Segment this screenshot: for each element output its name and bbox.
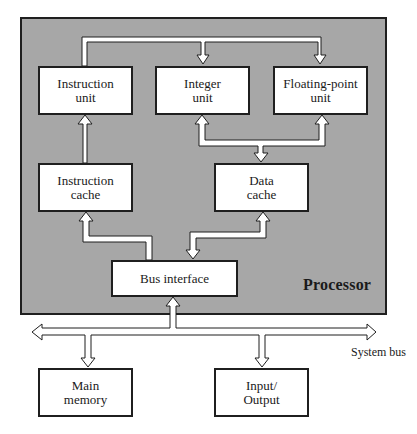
integer-unit-label: Integer unit [184, 77, 221, 105]
data-cache-label: Data cache [247, 174, 277, 202]
integer-unit-block: Integer unit [155, 66, 250, 115]
arrow-icache-to-iunit [78, 115, 92, 163]
main-memory-block: Main memory [38, 368, 133, 417]
floating-point-unit-label: Floating-point unit [283, 77, 357, 105]
instruction-unit-block: Instruction unit [38, 66, 133, 115]
arrow-bus-to-dcache [186, 212, 270, 259]
main-memory-label: Main memory [64, 379, 107, 407]
data-cache-block: Data cache [214, 163, 309, 212]
bus-interface-block: Bus interface [111, 260, 238, 297]
system-bus-label: System bus [351, 345, 406, 360]
floating-point-unit-block: Floating-point unit [273, 66, 368, 115]
processor-label: Processor [303, 276, 371, 294]
instruction-cache-label: Instruction cache [57, 174, 113, 202]
arrow-instruction-to-execution-units [82, 37, 326, 66]
system-bus-arrow [32, 297, 376, 367]
instruction-unit-label: Instruction unit [57, 77, 113, 105]
instruction-cache-block: Instruction cache [38, 163, 133, 212]
arrow-bus-to-icache [79, 212, 152, 260]
arrow-dcache-to-execution-units [195, 115, 329, 162]
bus-interface-label: Bus interface [140, 272, 209, 286]
processor-diagram: Instruction unit Integer unit Floating-p… [0, 0, 417, 434]
input-output-label: Input/ Output [243, 379, 279, 407]
input-output-block: Input/ Output [214, 368, 309, 417]
